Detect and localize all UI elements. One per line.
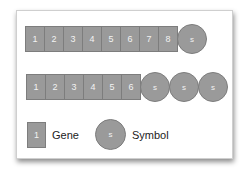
gene-box: 5 xyxy=(102,74,122,100)
gene-box: 2 xyxy=(45,74,65,100)
gene-box: 3 xyxy=(64,74,84,100)
legend-symbol-label: Symbol xyxy=(132,129,169,141)
gene-box: 8 xyxy=(158,26,178,52)
gene-box: 6 xyxy=(121,74,141,100)
gene-box: 1 xyxy=(25,26,45,52)
diagram-card: 1 2 3 4 5 6 7 8 s 1 2 3 4 5 6 s s s 1 Ge… xyxy=(16,10,233,159)
legend-gene-label: Gene xyxy=(52,129,79,141)
gene-box: 4 xyxy=(82,26,102,52)
gene-box: 4 xyxy=(83,74,103,100)
legend-gene-box: 1 xyxy=(27,122,46,148)
symbol-circle: s xyxy=(198,72,228,102)
symbol-circle: s xyxy=(140,72,170,102)
gene-box: 6 xyxy=(120,26,140,52)
gene-box: 2 xyxy=(44,26,64,52)
row-2: 1 2 3 4 5 6 s s s xyxy=(26,72,228,102)
legend: 1 Gene s Symbol xyxy=(27,119,169,150)
legend-symbol-circle: s xyxy=(95,119,126,150)
symbol-circle: s xyxy=(177,24,207,54)
symbol-circle: s xyxy=(169,72,199,102)
gene-box: 5 xyxy=(101,26,121,52)
row-1: 1 2 3 4 5 6 7 8 s xyxy=(25,24,207,54)
gene-box: 1 xyxy=(26,74,46,100)
gene-box: 3 xyxy=(63,26,83,52)
gene-box: 7 xyxy=(139,26,159,52)
